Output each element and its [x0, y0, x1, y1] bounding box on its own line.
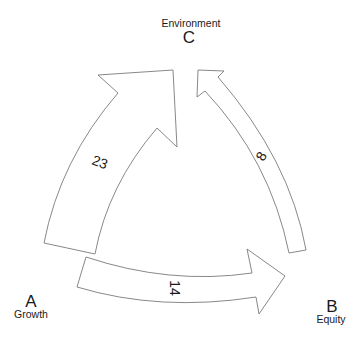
flow-arrow-b-to-c: 8 [197, 70, 306, 253]
node-b-name: Equity [316, 313, 346, 325]
node-c: Environment C [162, 17, 221, 47]
flow-diagram: Environment C 23 8 14 A Growth B Equity [0, 0, 362, 344]
node-c-letter: C [183, 28, 195, 47]
arrow-a-to-c-shape [44, 70, 177, 254]
node-a: A Growth [14, 292, 48, 320]
flow-label-a-to-b: 14 [167, 280, 183, 296]
flow-arrow-a-to-b: 14 [77, 249, 285, 314]
node-b: B Equity [316, 297, 346, 325]
flow-arrow-a-to-c: 23 [44, 70, 177, 254]
node-a-name: Growth [14, 308, 48, 320]
arrow-b-to-c-shape [197, 70, 306, 253]
